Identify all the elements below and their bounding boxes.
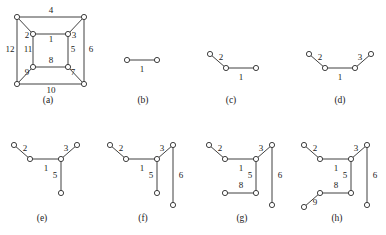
- graph-vertex: [107, 142, 112, 147]
- node-group: [301, 142, 369, 209]
- graph-vertex: [27, 156, 32, 161]
- edge-number-label: 2: [23, 143, 28, 153]
- graph-vertex: [124, 57, 129, 62]
- edge-number-label: 2: [218, 143, 223, 153]
- edge-number-label: 5: [71, 44, 76, 54]
- figure-container: 412610231115897(a)1(b)21(c)213(d)2135(e)…: [0, 0, 386, 235]
- graph-vertex: [348, 190, 353, 195]
- graph-vertex: [306, 51, 311, 56]
- edge-number-label: 1: [140, 163, 145, 173]
- edge-label-group: 21: [219, 52, 244, 82]
- panel-caption-g: (g): [236, 213, 247, 224]
- graph-vertex: [301, 142, 306, 147]
- edge-number-label: 3: [358, 52, 363, 62]
- graph-vertex: [364, 202, 369, 207]
- panel-caption-c: (c): [226, 95, 237, 106]
- edge-number-label: 8: [239, 180, 244, 190]
- graph-panel-g: 213568(g): [206, 142, 282, 224]
- graph-vertex: [11, 142, 16, 147]
- edge-number-label: 1: [49, 34, 54, 44]
- graph-vertex: [222, 190, 227, 195]
- graph-vertex: [206, 142, 211, 147]
- edge-number-label: 2: [119, 143, 124, 153]
- graph-vertex: [317, 156, 322, 161]
- graph-panel-b: 1(b): [124, 57, 159, 106]
- graph-vertex: [154, 190, 159, 195]
- edge-number-label: 3: [160, 143, 165, 153]
- edge-number-label: 5: [149, 170, 154, 180]
- edge-label-group: 2135689: [313, 143, 378, 207]
- graph-vertex: [207, 51, 212, 56]
- edge-group: [110, 145, 173, 205]
- edge-number-label: 1: [239, 163, 244, 173]
- graph-vertex: [253, 65, 258, 70]
- graph-vertex: [81, 14, 86, 19]
- graph-figure: 412610231115897(a)1(b)21(c)213(d)2135(e)…: [0, 0, 386, 235]
- edge-number-label: 5: [53, 170, 58, 180]
- edge-number-label: 3: [72, 30, 77, 40]
- graph-panel-f: 21356(f): [107, 142, 183, 224]
- graph-vertex: [352, 65, 357, 70]
- panel-caption-b: (b): [137, 95, 148, 106]
- edge-label-group: 21356: [119, 143, 184, 180]
- graph-vertex: [14, 14, 19, 19]
- edge-number-label: 5: [343, 170, 348, 180]
- graph-panel-c: 21(c): [207, 51, 258, 106]
- graph-vertex: [222, 156, 227, 161]
- edge-number-label: 1: [140, 64, 145, 74]
- graph-panel-e: 2135(e): [11, 142, 79, 224]
- edge-number-label: 6: [179, 170, 184, 180]
- graph-vertex: [253, 190, 258, 195]
- edge-number-label: 1: [334, 163, 339, 173]
- graph-vertex: [364, 142, 369, 147]
- edge-number-label: 2: [313, 143, 318, 153]
- edge-number-label: 3: [354, 143, 359, 153]
- edge-number-label: 6: [373, 170, 378, 180]
- edge-number-label: 8: [334, 180, 339, 190]
- graph-vertex: [81, 81, 86, 86]
- edge-number-label: 9: [25, 67, 30, 77]
- graph-panel-h: 2135689(h): [301, 142, 377, 224]
- edge-number-label: 7: [71, 67, 76, 77]
- edge-label-group: 1: [140, 64, 145, 74]
- graph-vertex: [154, 156, 159, 161]
- graph-vertex: [14, 81, 19, 86]
- graph-vertex: [123, 156, 128, 161]
- edge-number-label: 2: [219, 52, 224, 62]
- edge-group: [209, 145, 272, 205]
- graph-vertex: [170, 142, 175, 147]
- edge-number-label: 3: [64, 143, 69, 153]
- graph-vertex: [317, 190, 322, 195]
- graph-vertex: [322, 65, 327, 70]
- graph-vertex: [65, 31, 70, 36]
- graph-panel-a: 412610231115897(a): [6, 5, 94, 106]
- graph-vertex: [58, 156, 63, 161]
- edge-number-label: 12: [6, 44, 15, 54]
- edge-group: [210, 54, 256, 68]
- edge-number-label: 6: [89, 44, 94, 54]
- panel-caption-a: (a): [43, 95, 54, 106]
- graph-vertex: [30, 64, 35, 69]
- graph-vertex: [348, 156, 353, 161]
- graph-vertex: [301, 204, 306, 209]
- edge-number-label: 9: [313, 197, 318, 207]
- panel-caption-e: (e): [37, 213, 48, 224]
- graph-vertex: [368, 51, 373, 56]
- edge-number-label: 5: [248, 170, 253, 180]
- edge-number-label: 4: [49, 5, 54, 15]
- edge-number-label: 6: [278, 170, 283, 180]
- graph-vertex: [74, 142, 79, 147]
- graph-vertex: [253, 156, 258, 161]
- graph-vertex: [170, 202, 175, 207]
- edge-number-label: 8: [49, 55, 54, 65]
- edge-number-label: 10: [47, 85, 57, 95]
- graph-vertex: [269, 202, 274, 207]
- edge-number-label: 1: [338, 72, 343, 82]
- panel-caption-f: (f): [138, 213, 148, 224]
- edge-number-label: 1: [44, 163, 49, 173]
- edge-number-label: 11: [24, 44, 33, 54]
- graph-vertex: [154, 57, 159, 62]
- graph-vertex: [223, 65, 228, 70]
- edge-number-label: 1: [239, 72, 244, 82]
- edge-number-label: 2: [25, 30, 30, 40]
